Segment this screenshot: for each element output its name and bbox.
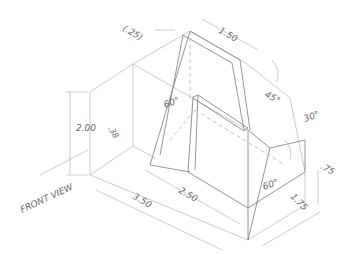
dim-inner-length: 2.50 (177, 185, 200, 204)
dim-right-height: .75 (319, 161, 337, 177)
dim-height: 2.00 (76, 123, 96, 133)
front-view-label: FRONT VIEW (19, 181, 76, 215)
dim-top-offset: (.25) (121, 23, 144, 42)
angle-left-incline: 60° (162, 95, 180, 110)
dim-base-length: 3.50 (131, 191, 154, 210)
isometric-drawing: (.25) 1.50 2.00 .38 3.50 2.50 1.75 .75 6… (0, 0, 349, 254)
dimension-labels: (.25) 1.50 2.00 .38 3.50 2.50 1.75 .75 6… (19, 23, 337, 215)
dim-right-depth: 1.75 (289, 191, 310, 212)
solid-edges (150, 31, 305, 240)
drawing-canvas: (.25) 1.50 2.00 .38 3.50 2.50 1.75 .75 6… (0, 0, 349, 254)
dimension-lines (40, 19, 320, 250)
angle-right-upper: 30° (302, 109, 320, 124)
dim-small-height: .38 (106, 125, 120, 141)
outline-box (90, 31, 305, 240)
angle-top-incline: 45° (263, 89, 282, 106)
dim-top-width: 1.50 (217, 25, 240, 44)
